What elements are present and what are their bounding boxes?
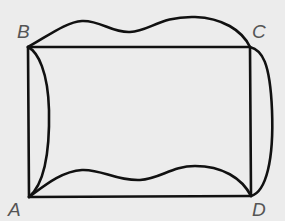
- edge-ab: [28, 47, 29, 197]
- vertex-label-d: D: [252, 200, 266, 219]
- curve-cd: [250, 47, 272, 196]
- vertex-label-b: B: [17, 22, 30, 41]
- diagram-canvas: B C A D: [0, 0, 285, 221]
- figure-svg: [0, 0, 285, 221]
- vertex-label-c: C: [252, 22, 266, 41]
- vertex-label-a: A: [8, 200, 21, 219]
- edge-da: [29, 196, 251, 197]
- edge-cd: [250, 47, 251, 196]
- curve-ba: [28, 47, 49, 197]
- curve-bc: [28, 17, 250, 47]
- curve-ad: [29, 166, 251, 197]
